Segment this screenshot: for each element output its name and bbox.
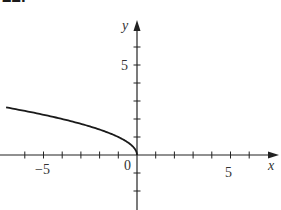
- y-axis-arrow-icon: [134, 20, 141, 31]
- y-tick-label-5: 5: [121, 58, 128, 73]
- curve-sqrt-neg-x: [6, 107, 137, 155]
- graph: −5 5 5 0 x y: [0, 0, 281, 210]
- y-axis-label: y: [120, 18, 129, 33]
- x-tick-label-neg5: −5: [35, 162, 50, 177]
- x-axis-label: x: [267, 158, 275, 173]
- origin-label: 0: [124, 158, 131, 173]
- x-tick-label-5: 5: [225, 165, 232, 180]
